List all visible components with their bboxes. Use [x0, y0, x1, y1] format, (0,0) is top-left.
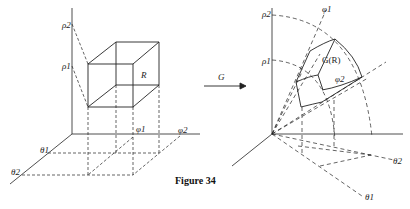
right-construction-lines: [272, 10, 394, 196]
right-theta2-label: θ2: [393, 157, 402, 166]
figure-caption: Figure 34: [175, 175, 216, 186]
right-region-label: G(R): [322, 56, 341, 65]
map-arrow: [204, 83, 246, 89]
left-region-label: R: [141, 71, 147, 80]
right-phi2-label: φ2: [335, 75, 344, 84]
left-rho2-label: ρ2: [62, 21, 71, 30]
box-R: [88, 42, 159, 107]
right-phi1-label: φ1: [322, 5, 331, 14]
right-rho2-label: ρ2: [262, 10, 271, 19]
region-G-R: [296, 39, 362, 107]
left-phi2-label: φ2: [178, 126, 187, 135]
left-panel: [10, 8, 200, 184]
map-G-label: G: [218, 73, 225, 82]
left-theta2-label: θ2: [11, 168, 20, 177]
right-rho1-label: ρ1: [262, 57, 271, 66]
left-phi1-label: φ1: [136, 125, 145, 134]
left-rho1-label: ρ1: [62, 62, 71, 71]
right-theta-axis: [232, 134, 272, 166]
right-theta1-label: θ1: [365, 193, 374, 202]
left-theta1-label: θ1: [40, 146, 49, 155]
right-panel: [232, 8, 403, 196]
